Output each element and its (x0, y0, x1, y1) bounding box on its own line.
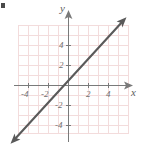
x-tick-label-neg2: -2 (41, 90, 49, 99)
y-tick-label-neg4: -4 (55, 121, 63, 130)
cartesian-plot (0, 0, 142, 146)
y-tick-label-neg2: -2 (55, 101, 63, 110)
x-tick-label-4: 4 (106, 90, 111, 99)
x-axis-label: x (131, 87, 136, 98)
y-tick-label-4: 4 (59, 41, 64, 50)
x-tick-label-neg4: -4 (21, 90, 29, 99)
x-tick-label-2: 2 (86, 90, 91, 99)
x-axis (14, 82, 133, 90)
coordinate-graph-figure: -4 -2 2 4 4 2 -2 -4 y x (0, 0, 142, 146)
y-axis-label: y (60, 3, 65, 14)
y-tick-label-2: 2 (59, 61, 64, 70)
